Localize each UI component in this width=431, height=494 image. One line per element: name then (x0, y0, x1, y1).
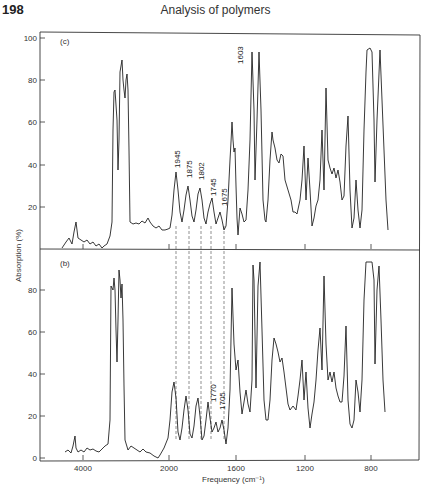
y-axis-title: Absorption (%) (14, 229, 23, 282)
spectrum-trace-b (65, 262, 385, 458)
y-tick-label: 40 (28, 370, 37, 379)
x-tick-label: 4000 (74, 464, 92, 473)
panel-divider (40, 249, 420, 250)
y-tick-label: 80 (28, 286, 37, 295)
peak-label: 1875 (185, 160, 194, 178)
y-axis-ticks: 10080604020806040200 (24, 34, 45, 463)
peak-label: 1770 (209, 384, 218, 402)
x-tick-label: 2000 (160, 464, 178, 473)
ir-spectra-chart: 10080604020806040200 4000200016001200800… (0, 0, 431, 494)
y-tick-label: 60 (28, 118, 37, 127)
peak-label: 1675 (220, 188, 229, 206)
peak-annotations: 19451875180217451675160317701705 (173, 46, 245, 410)
y-tick-label: 80 (28, 76, 37, 85)
x-tick-label: 1600 (227, 464, 245, 473)
panel-label-b: (b) (60, 259, 70, 268)
x-tick-label: 800 (364, 464, 378, 473)
dashed-guide-lines (176, 226, 224, 440)
y-tick-label: 0 (33, 454, 38, 463)
y-tick-label: 60 (28, 328, 37, 337)
peak-label: 1705 (218, 392, 227, 410)
peak-label: 1945 (173, 150, 182, 168)
x-tick-label: 1200 (296, 464, 314, 473)
spectrum-trace-c (62, 48, 388, 248)
panel-label-c: (c) (60, 37, 70, 46)
y-tick-label: 20 (28, 203, 37, 212)
y-tick-label: 40 (28, 161, 37, 170)
peak-label: 1603 (236, 46, 245, 64)
y-tick-label: 100 (24, 34, 38, 43)
y-tick-label: 20 (28, 412, 37, 421)
peak-label: 1745 (209, 178, 218, 196)
peak-label: 1802 (197, 162, 206, 180)
x-axis-title: Frequency (cm⁻¹) (202, 475, 265, 484)
